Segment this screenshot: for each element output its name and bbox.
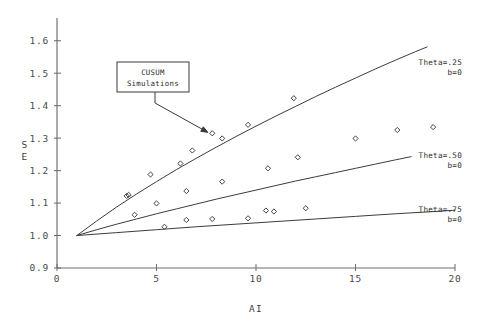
y-tick-label: 0.9 bbox=[29, 262, 49, 273]
data-point-diamond bbox=[154, 201, 159, 206]
callout-arrowhead bbox=[201, 127, 208, 132]
data-point-diamond bbox=[220, 136, 225, 141]
x-tick-label: 0 bbox=[54, 273, 61, 284]
callout-line-2: Simulations bbox=[127, 79, 179, 88]
data-point-diamond bbox=[190, 148, 195, 153]
data-point-diamond bbox=[271, 209, 276, 214]
y-tick-label: 1.4 bbox=[29, 100, 49, 111]
curve-label-b: b=0 bbox=[448, 215, 463, 224]
scatter-points bbox=[124, 96, 436, 230]
x-tick-label: 10 bbox=[249, 273, 262, 284]
data-point-diamond bbox=[210, 216, 215, 221]
curve-label-b: b=0 bbox=[448, 68, 463, 77]
data-point-diamond bbox=[210, 131, 215, 136]
y-tick-label: 1.1 bbox=[29, 197, 49, 208]
chart-canvas: 0.91.01.11.21.31.41.51.605101520 Theta=.… bbox=[0, 0, 492, 333]
axes: 0.91.01.11.21.31.41.51.605101520 bbox=[29, 18, 461, 284]
y-tick-label: 1.6 bbox=[29, 35, 49, 46]
y-tick-label: 1.5 bbox=[29, 68, 49, 79]
chart-figure: 0.91.01.11.21.31.41.51.605101520 Theta=.… bbox=[0, 0, 492, 333]
curve-label-theta: Theta=.50 bbox=[419, 151, 463, 160]
axis-titles: AISE bbox=[22, 139, 263, 314]
data-point-diamond bbox=[184, 188, 189, 193]
y-tick-label: 1.2 bbox=[29, 165, 49, 176]
curve-label-theta: Theta=.25 bbox=[419, 58, 462, 67]
x-axis-title: AI bbox=[249, 303, 263, 314]
data-point-diamond bbox=[291, 96, 296, 101]
x-tick-label: 5 bbox=[153, 273, 160, 284]
data-point-diamond bbox=[132, 212, 137, 217]
curve-label-b: b=0 bbox=[448, 161, 463, 170]
y-tick-label: 1.3 bbox=[29, 133, 49, 144]
data-point-diamond bbox=[263, 208, 268, 213]
callout-leader-line bbox=[155, 92, 208, 132]
cusum-callout: CUSUMSimulations bbox=[117, 62, 208, 132]
data-point-diamond bbox=[295, 155, 300, 160]
y-axis-title-line-1: S bbox=[22, 139, 29, 150]
data-point-diamond bbox=[395, 127, 400, 132]
data-point-diamond bbox=[303, 206, 308, 211]
x-tick-label: 15 bbox=[349, 273, 362, 284]
curve-label-group: Theta=.50b=0 bbox=[419, 151, 463, 170]
y-tick-label: 1.0 bbox=[29, 230, 49, 241]
curve-label-theta: Theta=.75 bbox=[419, 205, 462, 214]
curve-labels: Theta=.25b=0Theta=.50b=0Theta=.75b=0 bbox=[419, 58, 463, 224]
curve-label-group: Theta=.25b=0 bbox=[419, 58, 463, 77]
data-point-diamond bbox=[148, 172, 153, 177]
data-point-diamond bbox=[265, 166, 270, 171]
data-point-diamond bbox=[245, 122, 250, 127]
callout-line-1: CUSUM bbox=[141, 68, 165, 77]
x-tick-label: 20 bbox=[448, 273, 461, 284]
data-point-diamond bbox=[220, 179, 225, 184]
curve-label-group: Theta=.75b=0 bbox=[419, 205, 463, 224]
data-point-diamond bbox=[184, 217, 189, 222]
data-point-diamond bbox=[245, 216, 250, 221]
data-point-diamond bbox=[178, 161, 183, 166]
data-point-diamond bbox=[431, 124, 436, 129]
curve-line bbox=[77, 210, 455, 235]
data-point-diamond bbox=[353, 136, 358, 141]
y-axis-title-line-2: E bbox=[22, 151, 29, 162]
